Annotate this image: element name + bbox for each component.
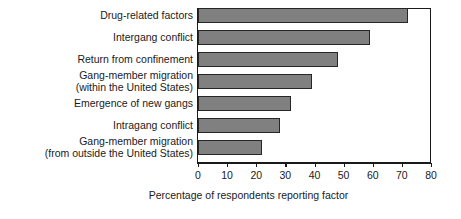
bar bbox=[198, 74, 312, 89]
x-axis-tick bbox=[227, 163, 228, 167]
bar bbox=[198, 8, 408, 23]
category-label-column: Drug-related factors Intergang conflict … bbox=[0, 8, 193, 163]
category-label: Intragang conflict bbox=[0, 120, 193, 132]
category-label-line: Intragang conflict bbox=[0, 120, 193, 132]
bar bbox=[198, 96, 291, 111]
category-label-line: Return from confinement bbox=[0, 54, 193, 66]
category-label: Gang-member migration (from outside the … bbox=[0, 136, 193, 159]
category-label: Intergang conflict bbox=[0, 32, 193, 44]
category-label-line: Gang-member migration bbox=[0, 70, 193, 82]
category-label-line: (from outside the United States) bbox=[0, 148, 193, 160]
x-axis-tick-label: 60 bbox=[367, 169, 379, 181]
category-label-line: Emergence of new gangs bbox=[0, 98, 193, 110]
x-axis-title: Percentage of respondents reporting fact… bbox=[149, 189, 349, 201]
x-axis-tick-label: 40 bbox=[309, 169, 321, 181]
bar bbox=[198, 140, 262, 155]
bar bbox=[198, 118, 280, 133]
x-axis-tick bbox=[431, 163, 432, 167]
category-label: Return from confinement bbox=[0, 54, 193, 66]
category-label-line: (within the United States) bbox=[0, 82, 193, 94]
x-axis-tick-label: 70 bbox=[396, 169, 408, 181]
x-axis-tick bbox=[198, 163, 199, 167]
x-axis-tick bbox=[285, 163, 286, 167]
x-axis-tick bbox=[402, 163, 403, 167]
bar-chart: Drug-related factors Intergang conflict … bbox=[0, 0, 461, 219]
x-axis-tick-label: 80 bbox=[425, 169, 437, 181]
bar bbox=[198, 52, 338, 67]
category-label: Drug-related factors bbox=[0, 10, 193, 22]
bars-layer bbox=[198, 8, 431, 163]
bar bbox=[198, 30, 370, 45]
x-axis-tick-label: 10 bbox=[221, 169, 233, 181]
category-label: Emergence of new gangs bbox=[0, 98, 193, 110]
x-axis-title-wrap: Percentage of respondents reporting fact… bbox=[0, 189, 461, 201]
category-label: Gang-member migration (within the United… bbox=[0, 70, 193, 93]
x-axis-tick-label: 50 bbox=[338, 169, 350, 181]
x-axis-tick-label: 30 bbox=[280, 169, 292, 181]
category-label-line: Drug-related factors bbox=[0, 10, 193, 22]
category-label-line: Gang-member migration bbox=[0, 136, 193, 148]
x-axis-tick bbox=[315, 163, 316, 167]
x-axis-tick bbox=[256, 163, 257, 167]
x-axis-tick-label: 0 bbox=[195, 169, 201, 181]
x-axis-tick bbox=[373, 163, 374, 167]
category-label-line: Intergang conflict bbox=[0, 32, 193, 44]
x-axis-tick-label: 20 bbox=[250, 169, 262, 181]
x-axis-tick bbox=[344, 163, 345, 167]
